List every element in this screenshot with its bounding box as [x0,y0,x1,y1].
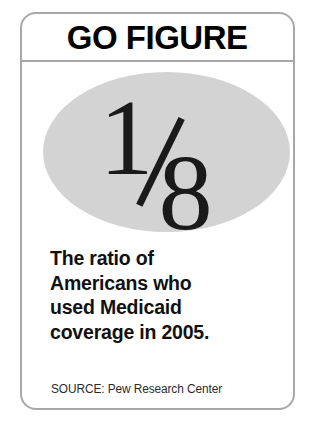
body-line-2: Americans who [50,271,275,296]
fraction-numerator: 1 [99,77,153,197]
source-attribution: SOURCE: Pew Research Center [51,382,222,396]
card-body-text: The ratio of Americans who used Medicaid… [50,246,275,344]
body-line-3: used Medicaid [50,295,275,320]
body-line-1: The ratio of [50,246,275,271]
fraction-graphic: 1 8 [22,62,293,236]
page-title: GO FIGURE [67,20,248,54]
body-line-4: coverage in 2005. [50,320,275,345]
fraction-denominator: 8 [158,132,212,236]
go-figure-card: GO FIGURE 1 8 The ratio of Americans who… [20,12,295,410]
card-header: GO FIGURE [22,14,293,62]
hero-graphic: 1 8 [22,62,293,236]
fraction-svg: 1 8 [22,62,293,236]
